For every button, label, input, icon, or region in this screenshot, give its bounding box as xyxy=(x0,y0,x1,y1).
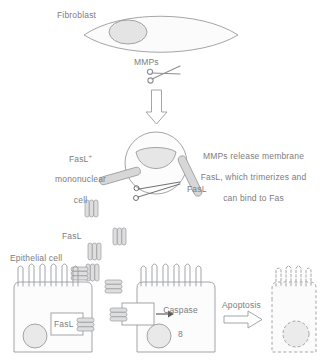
epithelial-cell-2 xyxy=(122,264,215,352)
fasl-trimer-bound-2 xyxy=(110,308,127,321)
fibroblast-nucleus xyxy=(109,20,147,44)
epithelial-nucleus-1 xyxy=(23,324,47,348)
fasl-trimer-horizontal-1 xyxy=(71,267,88,280)
apoptotic-cell xyxy=(272,266,316,352)
fasl-trimer-free-3 xyxy=(88,243,101,260)
fasl-trimer-free-2 xyxy=(113,228,126,245)
fasl-trimer-free-1 xyxy=(85,200,98,217)
scissors-icon-top xyxy=(147,66,180,83)
apoptotic-nucleus xyxy=(283,321,309,347)
fasl-trimer-bound-1 xyxy=(77,318,94,331)
diagram-svg xyxy=(0,0,320,361)
epithelial-nucleus-2 xyxy=(147,324,171,348)
fasl-trimer-horizontal-2 xyxy=(105,280,122,293)
diagram-canvas xyxy=(0,0,320,361)
down-arrow-icon xyxy=(146,90,167,124)
fibroblast-cell xyxy=(84,16,238,52)
right-arrow-icon xyxy=(224,311,262,328)
